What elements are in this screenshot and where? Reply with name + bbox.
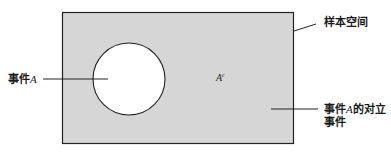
complement-suffix: 的对立 bbox=[353, 103, 386, 116]
complement-label-line1: 事件A的对立 bbox=[324, 103, 386, 116]
complement-symbol: Ac bbox=[216, 72, 225, 83]
event-a-label: 事件A bbox=[8, 73, 37, 86]
complement-symbol-sup: c bbox=[222, 72, 225, 78]
sample-space-label: 样本空间 bbox=[324, 16, 368, 29]
sample-space-text: 样本空间 bbox=[324, 16, 368, 29]
sample-space-leader-line bbox=[294, 24, 316, 31]
event-a-prefix: 事件 bbox=[8, 73, 30, 86]
complement-label-line2: 事件 bbox=[324, 116, 386, 129]
complement-prefix: 事件 bbox=[324, 103, 346, 116]
venn-diagram: 样本空间 事件A Ac 事件A的对立 事件 bbox=[0, 0, 391, 152]
event-a-var: A bbox=[30, 73, 37, 85]
complement-label: 事件A的对立 事件 bbox=[324, 103, 386, 129]
complement-var: A bbox=[346, 103, 353, 115]
